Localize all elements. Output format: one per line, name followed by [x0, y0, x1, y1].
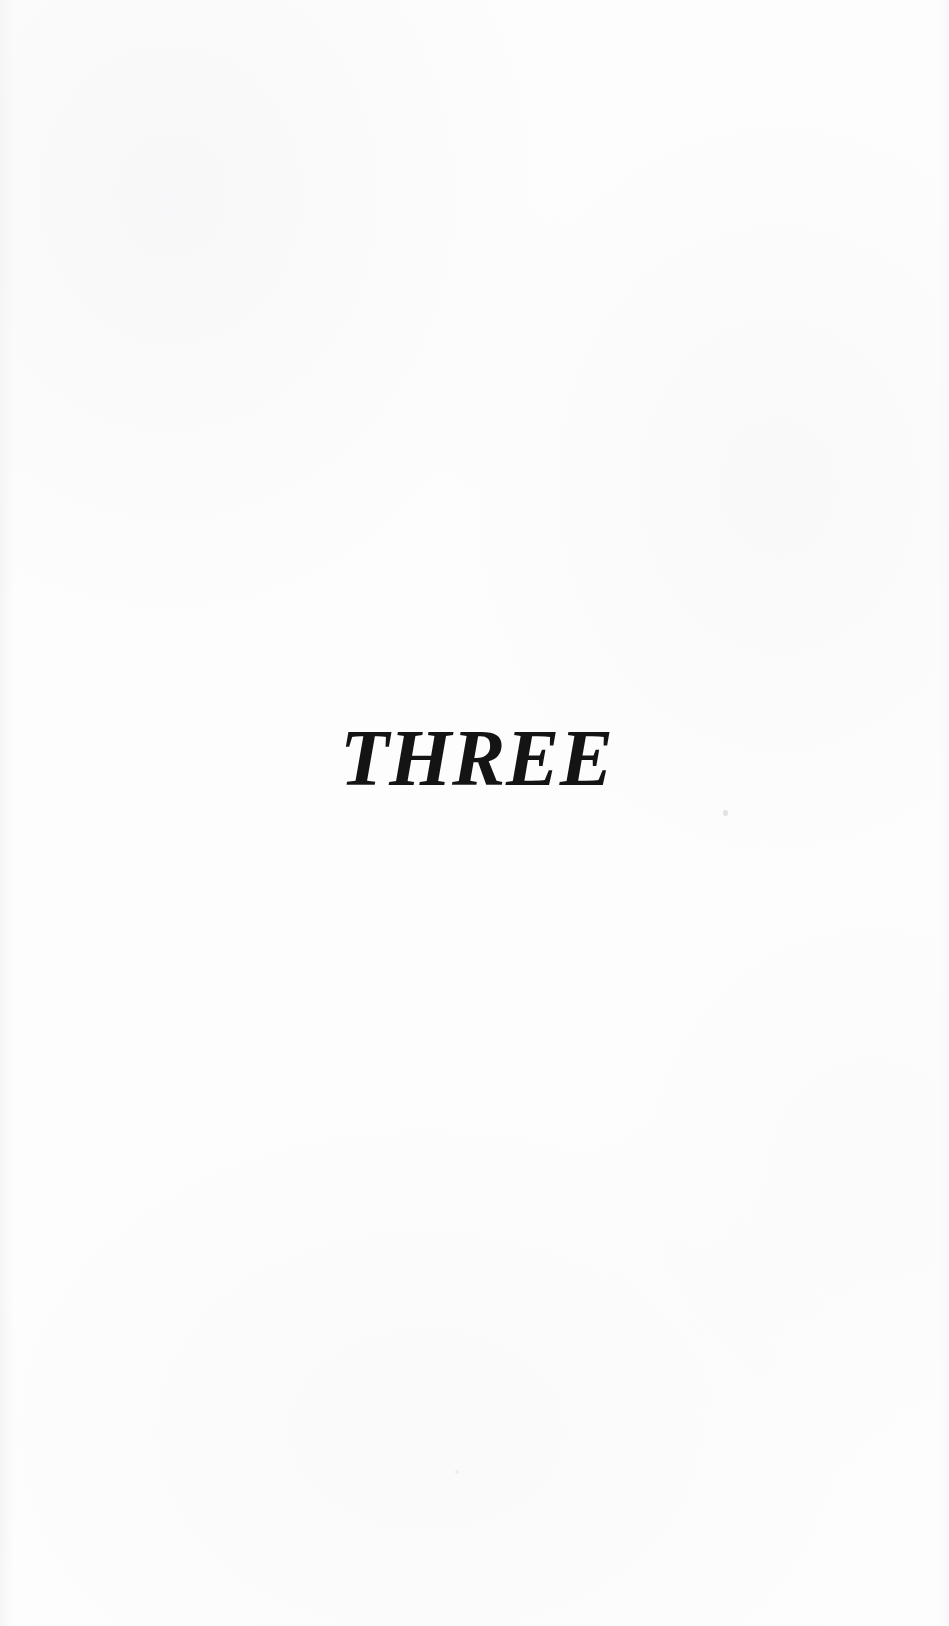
- book-page: THREE: [0, 0, 949, 1626]
- chapter-divider-block: THREE: [0, 0, 949, 1626]
- chapter-title: THREE: [340, 718, 614, 798]
